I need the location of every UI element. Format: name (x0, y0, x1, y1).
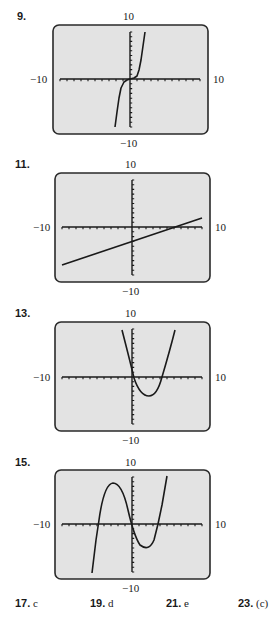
answer-number: 23. (238, 597, 253, 609)
ymax-label-15: 10 (125, 456, 136, 468)
problem-number-11: 11. (15, 158, 30, 170)
answer-value: c (33, 597, 38, 609)
answer-value: d (108, 597, 114, 609)
problem-number-15: 15. (15, 456, 30, 468)
xmax-label-9: 10 (213, 73, 224, 85)
xmax-label-15: 10 (215, 518, 226, 530)
xmax-label-13: 10 (215, 371, 226, 383)
xmax-label-11: 10 (215, 221, 226, 233)
answer-number: 21. (166, 597, 181, 609)
ymin-label-15: −10 (122, 582, 139, 594)
answer-value: (c) (256, 597, 268, 609)
answer-number: 17. (15, 597, 30, 609)
ymax-label-9: 10 (123, 10, 134, 22)
xmin-label-15: −10 (33, 518, 50, 530)
ymax-label-11: 10 (125, 158, 136, 170)
ymin-label-11: −10 (122, 285, 139, 297)
ymax-label-13: 10 (125, 307, 136, 319)
xmin-label-9: −10 (30, 73, 47, 85)
ymin-label-9: −10 (120, 137, 137, 149)
answer-23: 23. (c) (238, 597, 268, 609)
problem-number-13: 13. (15, 307, 30, 319)
xmin-label-11: −10 (33, 221, 50, 233)
answer-17: 17. c (15, 597, 38, 609)
answer-19: 19. d (90, 597, 114, 609)
problem-number-9: 9. (17, 10, 26, 22)
answer-value: e (184, 597, 189, 609)
xmin-label-13: −10 (33, 371, 50, 383)
answer-number: 19. (90, 597, 105, 609)
ymin-label-13: −10 (122, 434, 139, 446)
answer-21: 21. e (166, 597, 189, 609)
